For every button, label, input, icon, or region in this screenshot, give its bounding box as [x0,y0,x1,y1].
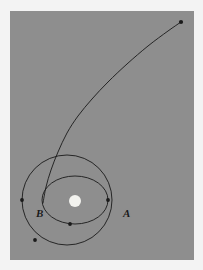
transfer-orbit-marker [68,222,72,226]
escape-trajectory-path [43,22,181,203]
circular-orbit-marker [33,238,37,242]
orbit-diagram-svg [10,11,194,260]
point-a-label: A [123,208,130,219]
circular-orbit-path [22,155,112,245]
orbit-curves-group [22,22,181,245]
figure-panel: B A [10,11,194,260]
escape-endpoint-marker [179,20,183,24]
central-body-icon [69,195,81,207]
point-b-marker [20,198,24,202]
central-body-group [69,195,81,207]
point-a-marker [106,198,110,202]
figure-frame: B A [0,0,203,270]
point-b-label: B [36,208,43,219]
